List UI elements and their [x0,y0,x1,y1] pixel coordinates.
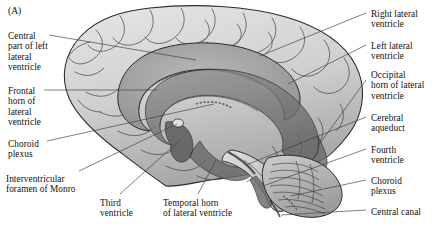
figure-panel: (A) Central part of left lateral ventric… [0,0,443,228]
label-cerebral-aqueduct: Cerebral aqueduct [371,113,405,134]
label-fourth-ventricle: Fourth ventricle [371,145,404,166]
label-temporal-horn-lateral-ventricle: Temporal horn of lateral ventricle [163,198,232,219]
panel-label: (A) [8,5,21,16]
label-choroid-plexus-right: Choroid plexus [371,176,402,197]
label-third-ventricle: Third ventricle [100,198,133,219]
label-central-canal: Central canal [371,207,421,217]
label-left-lateral-ventricle: Left lateral ventricle [371,41,413,62]
label-choroid-plexus-left: Choroid plexus [8,139,39,160]
label-central-part-left-lateral-ventricle: Central part of left lateral ventricle [8,31,48,73]
label-right-lateral-ventricle: Right lateral ventricle [371,9,418,30]
label-frontal-horn-lateral-ventricle: Frontal horn of lateral ventricle [8,86,41,128]
label-interventricular-foramen-of-monro: Interventricular foramen of Monro [6,174,75,195]
interventricular-foramen [173,119,184,127]
label-occipital-horn-lateral-ventricle: Occipital horn of lateral ventricle [371,70,424,101]
